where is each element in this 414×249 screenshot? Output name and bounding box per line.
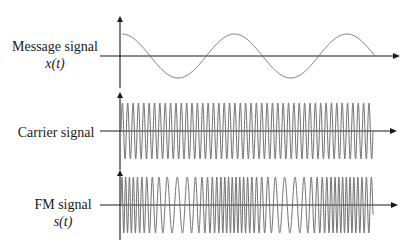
fm-panel	[100, 170, 398, 240]
signal-diagram	[0, 0, 414, 249]
x-axis-arrow-icon	[393, 53, 400, 59]
x-axis-arrow-icon	[391, 202, 398, 208]
carrier-panel	[100, 92, 397, 170]
y-axis-arrow-icon	[117, 170, 123, 176]
message-panel	[100, 16, 400, 88]
carrier-waveform	[121, 103, 373, 159]
y-axis-arrow-icon	[117, 92, 123, 98]
x-axis-arrow-icon	[390, 128, 397, 134]
y-axis-arrow-icon	[117, 16, 123, 22]
